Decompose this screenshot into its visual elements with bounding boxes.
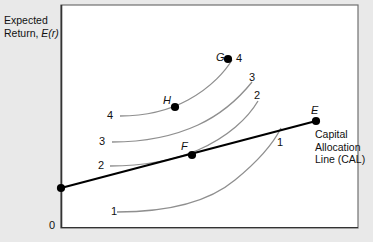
point-marker-h [171, 103, 179, 111]
curve-label-1-right: 1 [277, 136, 283, 148]
point-marker-g [224, 55, 232, 63]
y-axis-label: Expected Return, E(r) [4, 14, 59, 40]
y-axis-label-line1: Expected [4, 14, 59, 27]
curve-label-3-left: 3 [99, 135, 105, 147]
indifference-curve-figure: Expected Return, E(r) 0 G H F E 1 1 2 2 … [0, 0, 373, 242]
curve-label-3-right: 3 [249, 71, 255, 83]
curve-label-1-left: 1 [111, 205, 117, 217]
point-marker-e [312, 117, 320, 125]
origin-label: 0 [49, 219, 55, 231]
cal-caption-line1: Capital [315, 128, 365, 141]
y-axis-label-line2: Return, E(r) [4, 27, 59, 40]
cal-caption-line2: Allocation [315, 141, 365, 154]
y-axis-label-return: Return, [4, 27, 41, 39]
curve-label-4-right: 4 [236, 52, 242, 64]
point-label-e: E [311, 104, 318, 116]
plot-area [61, 5, 358, 228]
curve-label-4-left: 4 [107, 109, 113, 121]
y-axis-label-er: E(r) [41, 27, 59, 39]
point-label-g: G [216, 51, 225, 63]
point-label-f: F [181, 140, 188, 152]
risk-free-point-marker [57, 184, 65, 192]
curve-label-2-right: 2 [254, 89, 260, 101]
cal-caption-line3: Line (CAL) [315, 153, 365, 166]
point-marker-f [188, 151, 196, 159]
point-label-h: H [163, 94, 171, 106]
cal-caption: Capital Allocation Line (CAL) [315, 128, 365, 166]
curve-label-2-left: 2 [98, 159, 104, 171]
